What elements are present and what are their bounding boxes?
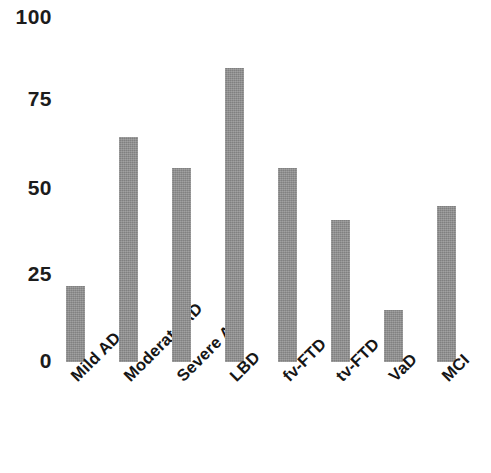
bar-vad[interactable]: [384, 310, 403, 362]
bar-chart: 100 75 50 25 0 Mild AD Moderate AD Sever…: [0, 0, 491, 473]
bar-mci[interactable]: [437, 206, 456, 362]
y-tick-label-75: 75: [0, 88, 52, 109]
bar-group-vad: VaD: [376, 0, 429, 473]
bar-mild-ad[interactable]: [66, 286, 85, 362]
plot-area: Mild AD Moderate AD Severe AD LBD fv-FTD…: [58, 0, 491, 473]
bar-tv-ftd[interactable]: [331, 220, 350, 362]
bar-fv-ftd[interactable]: [278, 168, 297, 362]
bar-group-fv-ftd: fv-FTD: [270, 0, 323, 473]
bar-lbd[interactable]: [225, 68, 244, 362]
bar-group-severe-ad: Severe AD: [164, 0, 217, 473]
y-axis: 100 75 50 25 0: [0, 0, 52, 473]
bar-moderate-ad[interactable]: [119, 137, 138, 362]
bar-group-lbd: LBD: [217, 0, 270, 473]
y-tick-label-100: 100: [0, 6, 52, 27]
y-tick-label-25: 25: [0, 263, 52, 284]
bar-severe-ad[interactable]: [172, 168, 191, 362]
y-tick-label-50: 50: [0, 177, 52, 198]
y-tick-label-0: 0: [0, 350, 52, 371]
bar-group-moderate-ad: Moderate AD: [111, 0, 164, 473]
bar-group-mild-ad: Mild AD: [58, 0, 111, 473]
bar-group-tv-ftd: tv-FTD: [323, 0, 376, 473]
bar-group-mci: MCI: [429, 0, 482, 473]
